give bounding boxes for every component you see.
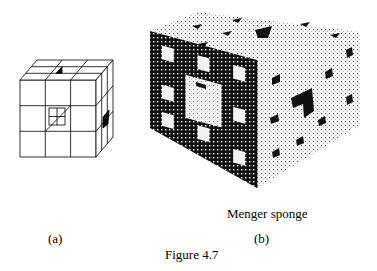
subdivided-cube-diagram (20, 60, 113, 157)
figure-caption: Figure 4.7 (165, 248, 218, 261)
panel-label-b: (b) (254, 232, 269, 245)
sponge-title: Menger sponge (227, 207, 308, 220)
menger-sponge-illustration (150, 12, 360, 188)
panel-label-a: (a) (48, 232, 62, 245)
